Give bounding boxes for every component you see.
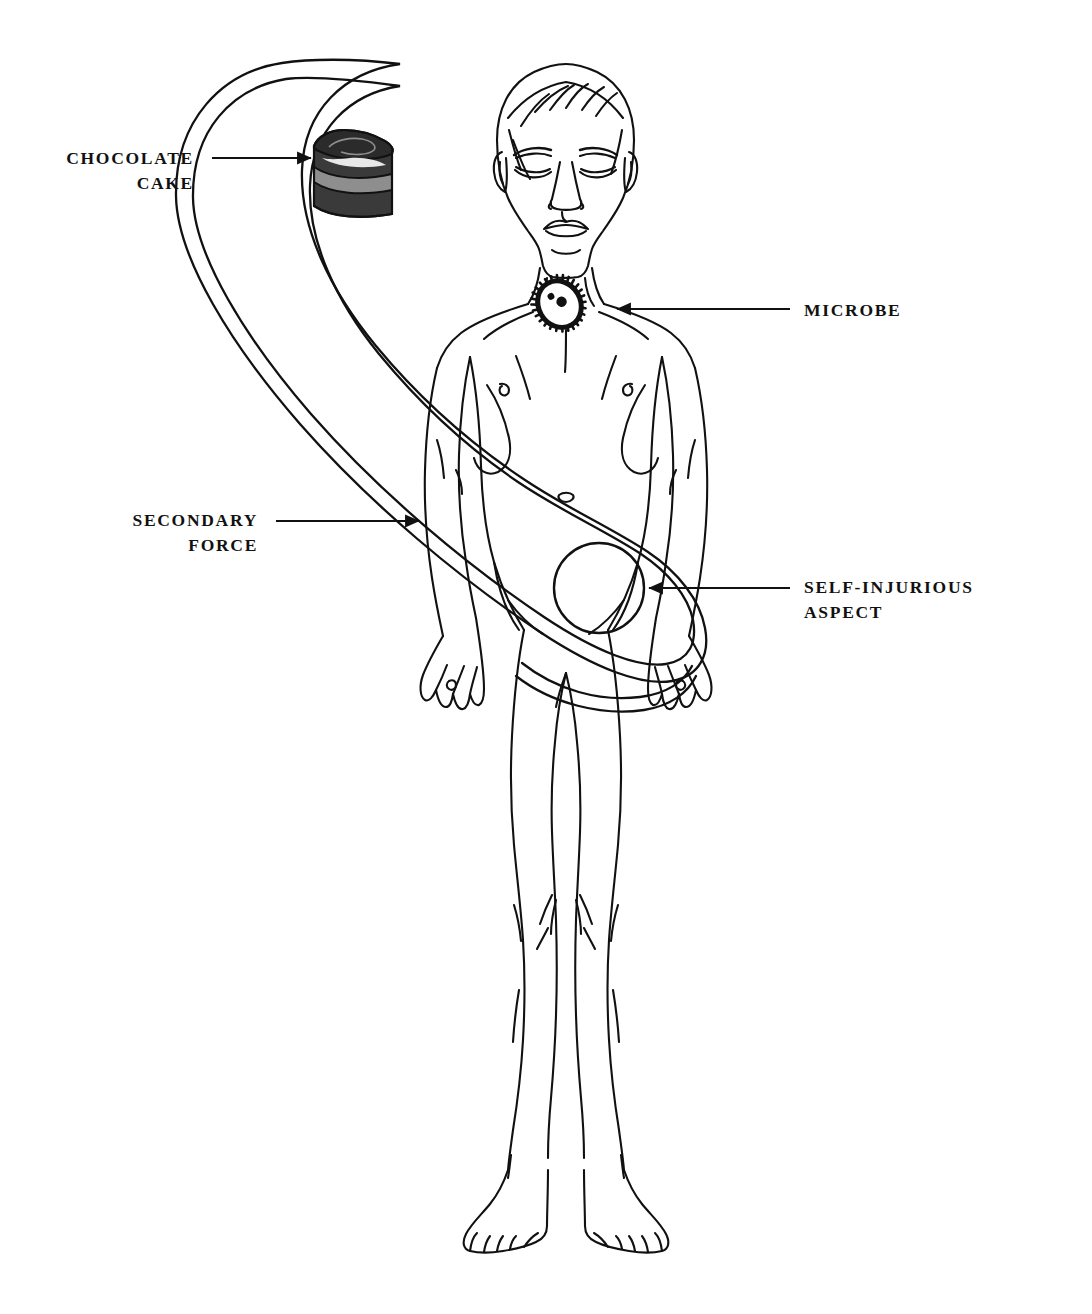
forearm-muscle-left	[437, 440, 444, 478]
toe-sep-left-4	[510, 1236, 516, 1249]
label-chocolate-cake: CHOCOLATE CAKE	[0, 146, 194, 196]
lower-lip	[546, 231, 586, 236]
abdomen-circle	[554, 543, 644, 633]
leader-arrows	[212, 158, 790, 588]
loop-outer-strand	[176, 60, 706, 682]
nose-tip	[551, 199, 582, 210]
calf-right	[613, 990, 619, 1042]
label-chocolate-cake-line2: CAKE	[0, 171, 194, 196]
leg-left-outer	[508, 630, 525, 1170]
loop-inner-strand	[193, 78, 694, 665]
mouth-line	[544, 225, 588, 229]
body-outline-group	[421, 64, 712, 1253]
toe-sep-right-2	[642, 1236, 648, 1252]
brow-ridge-left	[516, 154, 551, 158]
philtrum	[562, 212, 566, 221]
label-secondary-force-line1: SECONDARY	[132, 510, 258, 530]
ribcage-left	[516, 356, 530, 399]
label-secondary-force-line2: FORCE	[0, 533, 258, 558]
calf-left	[513, 990, 519, 1042]
finger-sep-right-3	[655, 667, 662, 694]
label-self-injurious-aspect-line2: ASPECT	[804, 600, 1092, 625]
anatomical-illustration	[0, 0, 1092, 1314]
label-self-injurious-aspect: SELF-INJURIOUS ASPECT	[804, 575, 1092, 625]
kneecap-left-1	[540, 895, 552, 924]
nipple-left	[500, 384, 509, 396]
hair-strand-6	[521, 94, 549, 126]
label-microbe: MICROBE	[804, 298, 1084, 323]
label-secondary-force: SECONDARY FORCE	[0, 508, 258, 558]
foot-right	[584, 1170, 668, 1253]
nose-bridge-right	[572, 162, 580, 199]
hair-temple-left	[509, 130, 521, 170]
sternum-center	[565, 330, 566, 372]
kneecap-left-2	[537, 928, 548, 949]
finger-sep-left-1	[436, 665, 447, 690]
ear-inner-right	[628, 162, 631, 184]
ribcage-right	[602, 356, 616, 399]
ear-inner-left	[500, 162, 503, 184]
toe-sep-right-3	[629, 1236, 635, 1251]
foot-left	[464, 1170, 548, 1253]
eye-right-lid	[581, 167, 615, 172]
toe-sep-left-1	[470, 1233, 477, 1251]
brow-ridge-right	[580, 154, 615, 158]
nipple-right	[623, 384, 632, 396]
hair-side-left	[513, 140, 530, 179]
shoulder-left	[437, 304, 528, 368]
hair-strand-5	[596, 93, 617, 116]
toe-sep-right-4	[616, 1236, 622, 1249]
diagram-canvas: CHOCOLATE CAKE MICROBE SECONDARY FORCE S…	[0, 0, 1092, 1314]
neck-right	[592, 268, 604, 304]
nose-bridge-left	[552, 162, 560, 199]
toe-sep-left-3	[497, 1236, 503, 1251]
toe-sep-right-1	[655, 1233, 662, 1251]
chocolate-cake-slice	[314, 130, 393, 217]
forearm-muscle-right	[688, 440, 695, 478]
label-microbe-line1: MICROBE	[804, 300, 901, 320]
finger-sep-left-3	[470, 667, 477, 694]
hand-left	[421, 618, 484, 709]
label-chocolate-cake-line1: CHOCOLATE	[66, 148, 194, 168]
kneecap-right-2	[584, 928, 595, 949]
leg-right-inner	[566, 673, 584, 1158]
leg-left-inner	[548, 673, 566, 1158]
chin-crease	[552, 250, 580, 254]
kneecap-right-1	[580, 895, 592, 924]
shoulder-right	[604, 304, 695, 368]
toe-sep-left-2	[484, 1236, 490, 1252]
label-self-injurious-aspect-line1: SELF-INJURIOUS	[804, 577, 974, 597]
